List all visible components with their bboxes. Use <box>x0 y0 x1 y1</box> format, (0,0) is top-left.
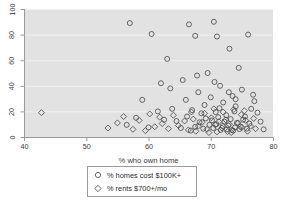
x-axis-tick-label: 60 <box>145 142 153 151</box>
x-axis-tick-label: 80 <box>270 142 278 151</box>
y-axis: 020406080100 <box>8 4 25 140</box>
scatter-chart: 0204060801004050607080% who own home% ho… <box>0 0 282 203</box>
legend: % homes cost $100K+% rents $700+/mo <box>88 167 197 197</box>
y-axis-tick-label: 100 <box>8 4 17 16</box>
chart-canvas: 0204060801004050607080% who own home% ho… <box>0 0 282 203</box>
y-axis-tick-label: 0 <box>8 136 17 140</box>
y-axis-tick-label: 80 <box>8 31 17 39</box>
y-axis-tick-label: 40 <box>8 82 17 90</box>
x-axis-tick-label: 70 <box>207 142 215 151</box>
y-axis-tick-label: 60 <box>8 57 17 65</box>
legend-entry-label: % rents $700+/mo <box>107 184 167 193</box>
legend-entry-homes-cost-100k[interactable]: % homes cost $100K+ <box>95 171 181 180</box>
x-axis: 4050607080 <box>21 138 278 152</box>
legend-entry-label: % homes cost $100K+ <box>107 171 181 180</box>
x-axis-tick-label: 40 <box>21 142 29 151</box>
x-axis-title: % who own home <box>119 156 179 165</box>
y-axis-tick-label: 20 <box>8 108 17 116</box>
x-axis-tick-label: 50 <box>83 142 91 151</box>
plot-area-background <box>24 9 273 137</box>
